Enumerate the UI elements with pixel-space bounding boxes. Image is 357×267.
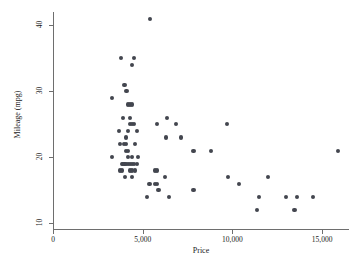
y-tick-label-0: 10 bbox=[36, 218, 44, 227]
data-point bbox=[209, 149, 213, 153]
data-point bbox=[179, 135, 183, 139]
y-tick-label-2: 30 bbox=[36, 86, 44, 95]
x-tick-0 bbox=[53, 230, 54, 234]
data-point bbox=[147, 182, 151, 186]
x-tick-label-0: 0 bbox=[51, 235, 55, 244]
y-tick-label-text-1: 20 bbox=[35, 153, 44, 161]
y-tick-0 bbox=[49, 223, 53, 224]
data-point bbox=[124, 135, 128, 139]
y-tick-label-text-2: 30 bbox=[35, 87, 44, 95]
data-point bbox=[155, 182, 159, 186]
y-tick-label-3: 40 bbox=[36, 20, 44, 29]
data-point bbox=[126, 149, 130, 153]
data-point bbox=[122, 83, 126, 87]
data-point bbox=[292, 208, 296, 212]
y-axis-line bbox=[53, 12, 54, 230]
y-tick-label-text-0: 10 bbox=[35, 219, 44, 227]
x-tick-3 bbox=[322, 230, 323, 234]
data-point bbox=[128, 116, 132, 120]
y-tick-3 bbox=[49, 25, 53, 26]
data-point bbox=[155, 168, 159, 172]
data-point bbox=[164, 135, 168, 139]
data-point bbox=[120, 168, 124, 172]
x-tick-label-3: 15,000 bbox=[312, 235, 333, 244]
x-tick-2 bbox=[232, 230, 233, 234]
data-point bbox=[295, 195, 299, 199]
data-point bbox=[165, 116, 169, 120]
data-point bbox=[145, 195, 149, 199]
data-point bbox=[226, 175, 230, 179]
data-point bbox=[124, 89, 128, 93]
data-point bbox=[148, 17, 152, 21]
x-tick-label-2: 10,000 bbox=[222, 235, 243, 244]
plot-area bbox=[53, 12, 349, 230]
scatter-plot-figure: 05,00010,00015,000 10203040 Price Mileag… bbox=[0, 0, 357, 267]
data-point bbox=[237, 182, 241, 186]
y-tick-label-text-3: 40 bbox=[35, 21, 44, 29]
y-tick-2 bbox=[49, 91, 53, 92]
x-axis-title: Price bbox=[53, 246, 349, 255]
data-point bbox=[191, 149, 195, 153]
data-point bbox=[163, 175, 167, 179]
x-tick-label-1: 5,000 bbox=[134, 235, 151, 244]
x-tick-1 bbox=[143, 230, 144, 234]
y-tick-1 bbox=[49, 157, 53, 158]
data-point bbox=[121, 116, 125, 120]
y-tick-label-1: 20 bbox=[36, 152, 44, 161]
data-point bbox=[130, 102, 134, 106]
data-point bbox=[117, 129, 121, 133]
y-axis-title: Mileage (mpg) bbox=[13, 65, 22, 165]
x-axis-line bbox=[53, 229, 349, 230]
